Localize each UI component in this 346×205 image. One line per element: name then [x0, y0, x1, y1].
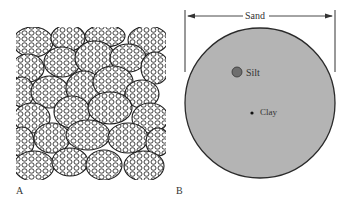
clay-label: Clay	[260, 108, 277, 117]
silt-label: Silt	[246, 68, 260, 78]
panel-a-grains	[0, 0, 346, 205]
panel-b-diagram	[185, 10, 335, 178]
panel-b-label: B	[176, 186, 183, 196]
figure: A B Sand Silt Clay	[0, 0, 346, 205]
panel-a-label: A	[16, 186, 23, 196]
sand-scale-label: Sand	[245, 11, 265, 21]
